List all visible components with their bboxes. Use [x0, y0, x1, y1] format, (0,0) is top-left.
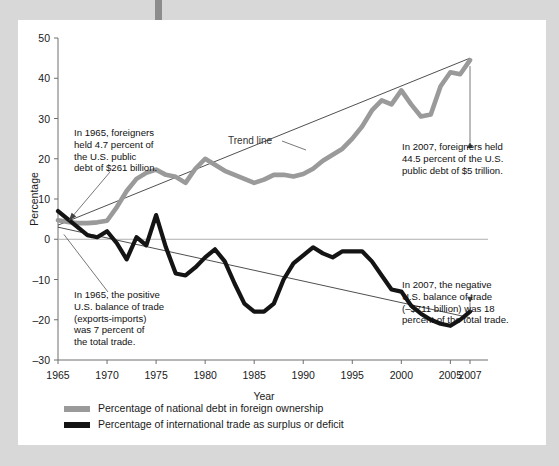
book-spine-marker [155, 0, 162, 22]
annotation-line: public debt of $5 trillion. [402, 165, 503, 176]
x-tick-label: 1985 [243, 369, 267, 381]
legend-swatch [64, 422, 90, 428]
x-tick-label: 1980 [193, 369, 217, 381]
annotation-line: held 4.7 percent of [74, 139, 154, 150]
leader-line [64, 234, 108, 292]
x-tick-label: 1995 [341, 369, 365, 381]
annotation-line: In 2007, the negative [402, 279, 492, 290]
x-axis-title: Year [253, 390, 275, 402]
legend: Percentage of national debt in foreign o… [64, 402, 344, 430]
annotation-line: In 1965, foreigners [74, 127, 154, 138]
y-tick-label: 20 [38, 153, 50, 165]
annotation-2007-trade-balance: In 2007, the negativeU.S. balance of tra… [402, 279, 509, 325]
page-top-margin [0, 0, 559, 22]
x-tick-label: 2007 [458, 369, 482, 381]
figure-card: –30–20–1001020304050 1965197019751980198… [18, 20, 546, 445]
y-tick-label: 30 [38, 113, 50, 125]
x-tick-label: 1970 [95, 369, 119, 381]
y-tick-label: 0 [44, 233, 50, 245]
legend-item: Percentage of international trade as sur… [64, 418, 344, 430]
leader-line [282, 141, 306, 150]
legend-item: Percentage of national debt in foreign o… [64, 402, 323, 414]
leader-line [69, 172, 110, 221]
legend-label: Percentage of national debt in foreign o… [98, 402, 323, 414]
y-tick-label: –10 [32, 274, 50, 286]
legend-label: Percentage of international trade as sur… [98, 418, 344, 430]
annotation-line: In 2007, foreigners held [402, 141, 503, 152]
y-tick-label: –20 [32, 314, 50, 326]
annotation-line: was 7 percent of [73, 324, 145, 335]
annotation-line: debt of $261 billion. [74, 162, 157, 173]
annotation-line: U.S. balance of trade [402, 291, 492, 302]
annotation-line: percent of the total trade. [402, 314, 509, 325]
annotation-1965-foreign-debt: In 1965, foreignersheld 4.7 percent ofth… [74, 127, 157, 173]
chart-canvas: –30–20–1001020304050 1965197019751980198… [18, 20, 546, 445]
y-tick-label: 40 [38, 72, 50, 84]
legend-swatch [64, 406, 90, 412]
y-tick-label: 10 [38, 193, 50, 205]
x-tick-label: 2000 [390, 369, 414, 381]
x-tick-label: 1990 [292, 369, 316, 381]
annotation-line: 44.5 percent of the U.S. [402, 153, 503, 164]
x-tick-label: 1965 [46, 369, 70, 381]
annotation-line: the total trade. [74, 336, 135, 347]
line-chart: –30–20–1001020304050 1965197019751980198… [18, 20, 546, 445]
y-axis-title: Percentage [28, 172, 40, 226]
annotation-line: the U.S. public [74, 151, 137, 162]
annotation-line: (–$711 billion) was 18 [402, 303, 495, 314]
annotation-2007-foreign-debt: In 2007, foreigners held44.5 percent of … [402, 141, 503, 176]
x-tick-label: 1975 [144, 369, 168, 381]
y-tick-label: 50 [38, 32, 50, 44]
annotation-line: (exports-imports) [74, 313, 147, 324]
annotation-line: U.S. balance of trade [74, 301, 164, 312]
y-tick-label: –30 [32, 354, 50, 366]
x-tick-labels: 1965197019751980198519901995200020052007 [46, 369, 482, 381]
annotation-1965-trade-balance: In 1965, the positiveU.S. balance of tra… [73, 289, 164, 347]
annotation-line: In 1965, the positive [74, 289, 160, 300]
annotation-line: Trend line [228, 135, 273, 146]
trend-line-label: Trend line [228, 135, 273, 146]
